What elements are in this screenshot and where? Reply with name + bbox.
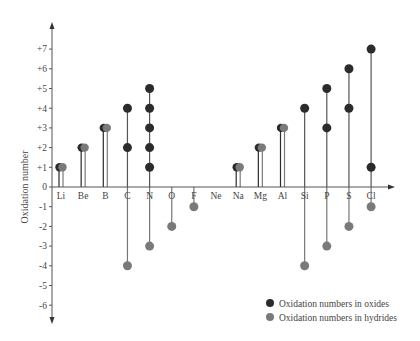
hydride-dot	[367, 202, 376, 211]
oxide-dot	[145, 84, 154, 93]
legend-hydrides-marker	[266, 313, 274, 321]
oxide-dot	[145, 143, 154, 152]
y-axis-arrow-down-icon	[50, 317, 55, 324]
element-label-be: Be	[78, 191, 89, 201]
hydride-dot	[167, 222, 176, 231]
y-tick-label: +7	[37, 44, 47, 54]
legend-oxides-label: Oxidation numbers in oxides	[279, 299, 389, 309]
oxide-dot	[367, 163, 376, 172]
stems-layer	[59, 49, 371, 266]
hydride-dot	[344, 222, 353, 231]
y-tick-label: +4	[37, 104, 47, 114]
oxide-dot	[145, 163, 154, 172]
oxidation-number-chart: +7+6+5+4+3+2+10-1-2-3-4-5-6 LiBeBCNOFNeN…	[0, 0, 420, 341]
y-tick-label: 0	[42, 182, 47, 192]
hydride-dot	[58, 163, 66, 171]
element-label-f: F	[191, 191, 196, 201]
y-tick-label: -4	[39, 261, 47, 271]
element-label-mg: Mg	[254, 191, 267, 201]
element-label-b: B	[102, 191, 108, 201]
element-label-al: Al	[278, 191, 288, 201]
x-labels: LiBeBCNOFNeNaMgAlSiPSCl	[57, 191, 376, 201]
hydride-dot	[258, 143, 266, 151]
y-tick-label: -6	[39, 301, 47, 311]
hydride-dot	[103, 124, 111, 132]
hydride-dot	[80, 143, 88, 151]
oxide-dot	[123, 104, 132, 113]
hydride-dot	[145, 242, 154, 251]
oxide-dot	[344, 104, 353, 113]
element-label-na: Na	[233, 191, 245, 201]
oxide-dot	[322, 84, 331, 93]
y-ticks: +7+6+5+4+3+2+10-1-2-3-4-5-6	[37, 44, 52, 310]
hydride-dot	[236, 163, 244, 171]
oxide-dot	[322, 123, 331, 132]
element-label-si: Si	[301, 191, 309, 201]
element-label-n: N	[146, 191, 153, 201]
oxide-dot	[145, 104, 154, 113]
y-tick-label: +2	[37, 143, 47, 153]
hydride-dot	[300, 261, 309, 270]
oxide-dot	[344, 64, 353, 73]
hydride-dot	[189, 202, 198, 211]
element-label-c: C	[124, 191, 130, 201]
legend: Oxidation numbers in oxides Oxidation nu…	[266, 299, 397, 323]
y-tick-label: +5	[37, 84, 47, 94]
x-axis-arrow-icon	[388, 185, 395, 190]
oxide-dot	[300, 104, 309, 113]
element-label-li: Li	[57, 191, 66, 201]
oxide-dot	[123, 143, 132, 152]
element-label-ne: Ne	[211, 191, 222, 201]
element-label-o: O	[168, 191, 175, 201]
legend-oxides-marker	[266, 299, 274, 307]
oxide-dot	[367, 45, 376, 54]
hydride-dot	[322, 242, 331, 251]
y-tick-label: -5	[39, 281, 47, 291]
element-label-cl: Cl	[367, 191, 376, 201]
y-tick-label: +6	[37, 64, 47, 74]
y-tick-label: +3	[37, 123, 47, 133]
element-label-p: P	[324, 191, 329, 201]
hydride-dot	[280, 124, 288, 132]
element-label-s: S	[346, 191, 351, 201]
y-axis-arrow-up-icon	[50, 22, 55, 29]
legend-hydrides-label: Oxidation numbers in hydrides	[279, 313, 397, 323]
axes	[50, 22, 396, 324]
oxide-dot	[145, 123, 154, 132]
y-tick-label: -3	[39, 241, 47, 251]
y-tick-label: +1	[37, 163, 47, 173]
hydride-dot	[123, 261, 132, 270]
y-tick-label: -2	[39, 222, 47, 232]
y-axis-title: Oxidation number	[19, 150, 30, 224]
y-tick-label: -1	[39, 202, 47, 212]
